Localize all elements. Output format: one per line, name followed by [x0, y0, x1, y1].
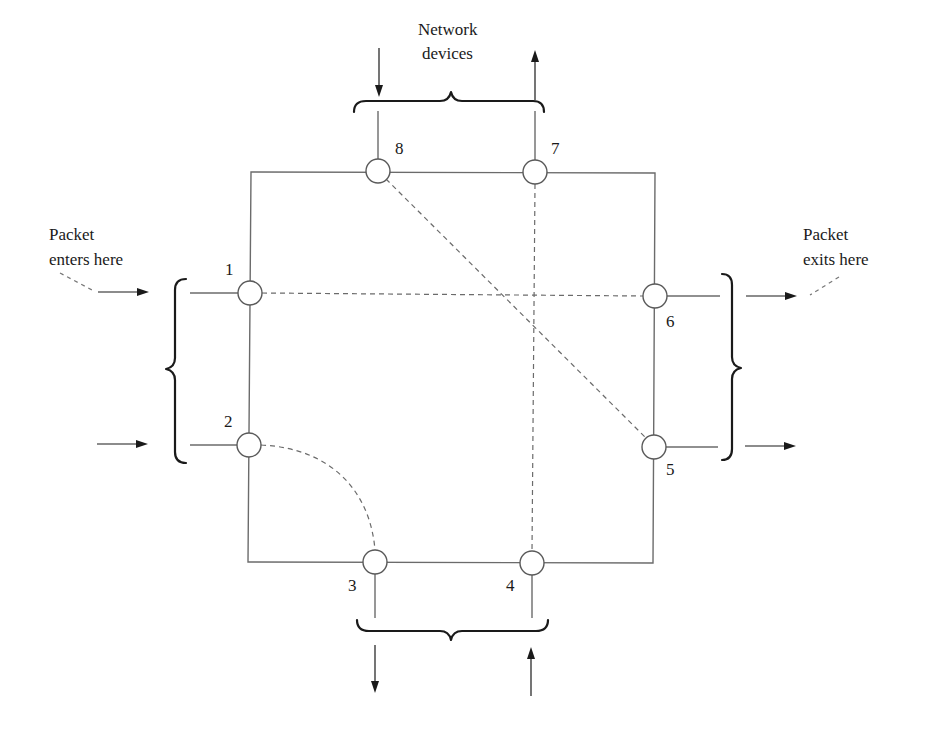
arrow-head-icon	[375, 85, 383, 97]
node-1	[238, 281, 262, 305]
exit-leader	[810, 277, 839, 295]
node-2	[237, 433, 261, 457]
network-ring	[248, 172, 655, 563]
arrow-head-icon	[136, 440, 148, 448]
node-label-6: 6	[666, 312, 675, 331]
arrow-head-icon	[784, 442, 796, 450]
node-label-3: 3	[348, 576, 357, 595]
caption-packet-exit: Packet	[803, 225, 849, 244]
node-7	[523, 160, 547, 184]
caption-packet-enter: Packet	[49, 225, 95, 244]
nodes	[237, 159, 667, 575]
arrow-head-icon	[137, 288, 149, 296]
arrow-head-icon	[785, 292, 797, 300]
node-6	[643, 284, 667, 308]
enter-leader	[60, 273, 92, 290]
dashed-routes	[261, 179, 646, 551]
bottom-brace	[357, 620, 548, 640]
caption-exits-here: exits here	[803, 250, 869, 269]
caption-devices: devices	[422, 44, 473, 63]
node-label-2: 2	[224, 412, 233, 431]
node-3	[363, 550, 387, 574]
node-label-8: 8	[395, 139, 404, 158]
top-brace	[354, 92, 544, 112]
flow-arrows	[97, 48, 797, 696]
arrow-head-icon	[371, 681, 379, 693]
node-label-4: 4	[506, 576, 515, 595]
arrow-head-icon	[531, 50, 539, 62]
node-8	[366, 159, 390, 183]
captions: Network devices Packet enters here Packe…	[49, 20, 869, 269]
arrow-head-icon	[527, 647, 535, 659]
node-5	[642, 435, 666, 459]
route-7-to-4	[532, 184, 535, 551]
caption-network: Network	[418, 20, 478, 39]
node-4	[520, 551, 544, 575]
route-8-to-5	[386, 179, 646, 438]
node-label-7: 7	[551, 139, 560, 158]
caption-enters-here: enters here	[49, 250, 123, 269]
route-2-to-3	[261, 445, 375, 550]
device-stubs	[190, 111, 720, 618]
network-diagram: 1 2 3 4 5 6 7 8	[0, 0, 931, 731]
node-label-5: 5	[666, 460, 675, 479]
node-label-1: 1	[225, 260, 234, 279]
node-labels: 1 2 3 4 5 6 7 8	[224, 139, 675, 595]
route-1-to-6	[262, 293, 643, 296]
right-brace	[722, 274, 741, 460]
left-brace	[166, 279, 186, 463]
